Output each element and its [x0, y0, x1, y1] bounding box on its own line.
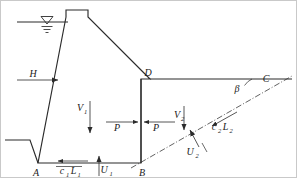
point-label-C: C	[263, 73, 270, 84]
force-label-V2: V 2	[174, 109, 185, 122]
force-label-c2L2-c: c	[212, 121, 217, 132]
force-label-c1L1-sub1: 1	[66, 171, 69, 178]
figure-border	[1, 1, 297, 178]
point-label-A: A	[32, 167, 40, 178]
force-label-V1: V 1	[77, 102, 87, 115]
beta-angle-arc	[245, 79, 253, 86]
force-label-P-right: P	[152, 122, 159, 133]
force-label-c2L2-sub2: 2	[229, 127, 233, 134]
arrow-U2	[190, 130, 199, 147]
force-label-U2-sub: 2	[195, 152, 199, 159]
u2-leader-line	[202, 143, 207, 152]
force-label-c2L2-sub1: 2	[218, 127, 222, 134]
force-label-V1-sub: 1	[84, 108, 87, 115]
force-label-U2-base: U	[186, 146, 194, 157]
point-label-D: D	[143, 67, 152, 78]
force-label-P-left: P	[113, 122, 120, 133]
force-label-c2L2-L: L	[222, 121, 229, 132]
force-label-U1: U 1	[100, 164, 112, 177]
water-table-symbol	[41, 17, 53, 33]
force-label-U2: U 2	[186, 146, 199, 159]
dam-body-outline	[38, 10, 150, 163]
force-label-U1-sub: 1	[109, 170, 112, 177]
force-label-U1-base: U	[100, 164, 108, 175]
force-label-c1L1: c 1 L 1	[56, 165, 82, 178]
angle-label-beta: β	[234, 83, 240, 94]
diagram-canvas: A B C D H V 1 P P V 2 U 1 U 2	[0, 0, 297, 178]
point-label-B: B	[139, 167, 145, 178]
force-label-H: H	[28, 68, 37, 79]
force-label-c1L1-sub2: 1	[77, 171, 80, 178]
engineering-diagram-figure: A B C D H V 1 P P V 2 U 1 U 2	[0, 0, 297, 178]
force-label-c2L2: c 2 L 2	[212, 121, 234, 134]
left-ground-surface-line	[5, 140, 38, 163]
